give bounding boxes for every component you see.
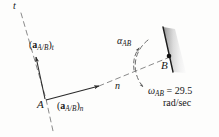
- alpha-ab-label: αAB: [117, 36, 131, 48]
- omega-units: rad/sec: [148, 98, 192, 109]
- subscript-a-over-b: A/B: [65, 105, 76, 113]
- diagram-canvas: [0, 0, 219, 137]
- subscript-t: t: [52, 44, 54, 52]
- t-axis-label: t: [13, 1, 16, 12]
- omega-equals-value: = 29.5: [164, 85, 192, 96]
- subscript-n: n: [80, 105, 84, 113]
- n-axis-dashed-line: [99, 57, 170, 86]
- t-axis-dashed-line: [21, 13, 53, 131]
- omega-symbol: ω: [148, 85, 155, 96]
- subscript-a-over-b: A/B: [37, 44, 48, 52]
- tangential-acceleration-vector: [36, 57, 45, 99]
- tangential-acceleration-label: (aA/B)t: [29, 40, 54, 52]
- normal-acceleration-label: (aA/B)n: [57, 101, 83, 113]
- alpha-curved-arrow: [134, 48, 139, 70]
- omega-ab-value-label: ωAB = 29.5 rad/sec: [148, 86, 192, 109]
- point-a-label: A: [37, 99, 44, 111]
- n-axis-label: n: [115, 81, 120, 92]
- point-b-dot: [167, 54, 172, 59]
- omega-curved-arrow: [135, 40, 148, 87]
- normal-acceleration-vector: [46, 86, 99, 100]
- kinematics-diagram: t (aA/B)t (aA/B)n A n αAB B ωAB = 29.5 r…: [0, 0, 219, 137]
- alpha-subscript: AB: [122, 40, 131, 48]
- point-b-label: B: [161, 60, 168, 72]
